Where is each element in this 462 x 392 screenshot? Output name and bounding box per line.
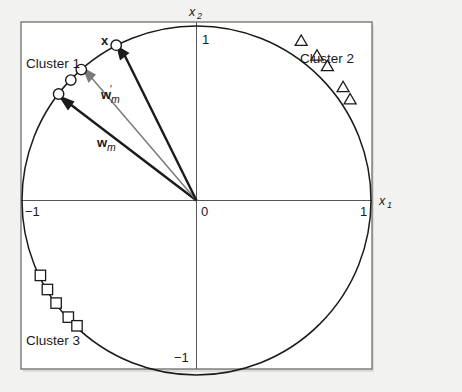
cluster-3-point xyxy=(72,321,82,331)
cluster-3-point xyxy=(42,284,52,294)
cluster-2-label: Cluster 2 xyxy=(300,51,354,66)
cluster-1-label: Cluster 1 xyxy=(26,56,80,71)
tick-label-origin: 0 xyxy=(201,204,208,219)
cluster-3-point xyxy=(51,298,61,308)
cluster-1-point xyxy=(66,75,76,85)
y-axis-label-name: x xyxy=(188,5,196,19)
wm-vector-label-subscript: m xyxy=(107,141,116,153)
unit-circle-diagram: x 2 x 1 1 1 −1 −1 0 Cluster 1 Cluster 2 … xyxy=(0,0,462,392)
wm-prime-vector-label-subscript: m xyxy=(111,93,120,105)
x-vector-label: x xyxy=(101,33,109,48)
x-axis-label-name: x xyxy=(378,194,386,208)
cluster-3-point xyxy=(35,270,45,280)
cluster-1-point xyxy=(53,89,63,99)
tick-label-y-top: 1 xyxy=(202,32,209,47)
figure-container: x 2 x 1 1 1 −1 −1 0 Cluster 1 Cluster 2 … xyxy=(0,0,462,392)
tick-label-x-left: −1 xyxy=(25,204,40,219)
tick-label-x-right: 1 xyxy=(360,204,367,219)
cluster-3-label: Cluster 3 xyxy=(26,333,80,348)
tick-label-y-bottom: −1 xyxy=(174,350,189,365)
cluster-1-point xyxy=(111,40,121,50)
x-axis-label-subscript: 1 xyxy=(387,200,392,210)
y-axis-label-subscript: 2 xyxy=(196,11,202,21)
